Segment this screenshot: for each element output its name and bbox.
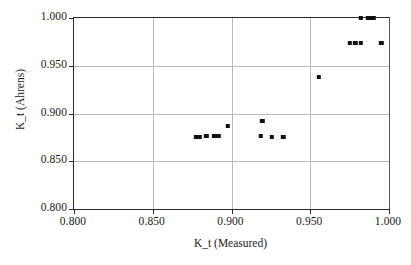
y-axis-tick-label: 1.000 — [21, 11, 67, 23]
data-point — [225, 124, 229, 128]
x-axis-tick-label: 1.000 — [358, 216, 411, 228]
y-axis-tick-label: 0.900 — [21, 107, 67, 119]
x-axis-tick-label: 0.850 — [122, 216, 182, 228]
data-point — [269, 135, 273, 139]
x-axis-tick-label: 0.900 — [201, 216, 261, 228]
data-point — [358, 16, 362, 20]
data-point — [317, 75, 321, 79]
data-point — [197, 135, 201, 139]
y-axis-tick — [69, 66, 74, 67]
y-axis-tick-label: 0.950 — [21, 59, 67, 71]
y-axis-tick-label: 0.850 — [21, 155, 67, 167]
x-axis-tick-label: 0.800 — [43, 216, 103, 228]
x-axis-tick-label: 0.950 — [279, 216, 339, 228]
data-point — [217, 134, 221, 138]
y-axis-title: K_t (Ahrens) — [14, 40, 27, 160]
y-axis-tick — [69, 161, 74, 162]
y-axis-tick-label: 0.800 — [21, 202, 67, 214]
data-point — [347, 41, 351, 45]
data-point — [260, 119, 264, 123]
plot-area — [73, 17, 390, 210]
data-point — [358, 41, 362, 45]
scatter-chart-figure: 0.8000.8500.9000.9501.000 0.8000.8500.90… — [0, 0, 411, 265]
x-axis-tick — [232, 209, 233, 214]
x-axis-tick — [74, 209, 75, 214]
data-point — [353, 41, 357, 45]
gridline-vertical — [153, 18, 154, 209]
x-axis-tick-labels: 0.8000.8500.9000.9501.000 — [73, 216, 388, 232]
gridline-vertical — [310, 18, 311, 209]
data-point — [379, 41, 383, 45]
x-axis-tick — [389, 209, 390, 214]
x-axis-tick — [310, 209, 311, 214]
data-point — [281, 135, 285, 139]
x-axis-title: K_t (Measured) — [73, 237, 388, 250]
y-axis-tick — [69, 114, 74, 115]
data-point — [258, 134, 262, 138]
y-axis-tick — [69, 18, 74, 19]
x-axis-tick — [153, 209, 154, 214]
gridline-vertical — [232, 18, 233, 209]
data-point — [204, 134, 208, 138]
data-point — [371, 16, 375, 20]
